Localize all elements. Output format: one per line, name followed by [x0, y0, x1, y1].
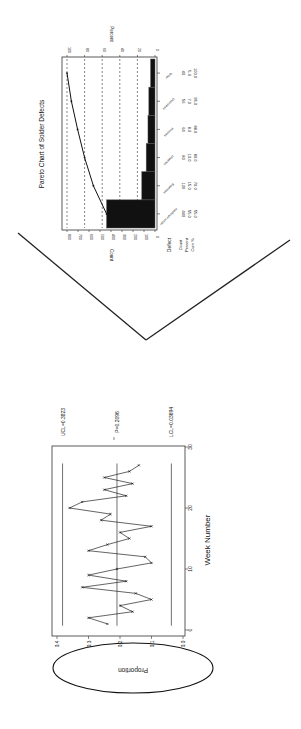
pareto-row-label-defect: Defect	[166, 237, 172, 252]
pareto-row-label-count: Count	[178, 239, 183, 251]
pareto-cum-value: 55.0	[193, 210, 198, 219]
pareto-count-tick-label: 0	[155, 236, 159, 238]
pareto-chart: Insufficient solder44055.055.0Blowholes1…	[38, 26, 198, 262]
pareto-percent-value: 7.0	[187, 98, 192, 104]
pareto-count-value: 440	[181, 211, 186, 218]
pareto-count-value: 120	[181, 182, 186, 189]
pareto-percent-axis-title: Percent	[109, 26, 114, 42]
pareto-bar	[142, 172, 155, 200]
pareto-count-tick-label: 100	[144, 234, 148, 240]
week-tick-label: 20	[187, 505, 193, 511]
pareto-category-label: Unwetted	[163, 154, 175, 166]
pareto-cum-value: 80.0	[193, 154, 198, 163]
pareto-cumulative-point	[93, 185, 95, 187]
pareto-row-label-percent: Percent	[184, 237, 189, 252]
pareto-count-tick-label: 200	[133, 234, 137, 240]
v-connector	[18, 233, 290, 340]
pareto-bar	[146, 144, 155, 172]
pareto-percent-tick-label: 100	[67, 47, 71, 53]
pareto-cumulative-point	[106, 213, 108, 215]
week-tick-label: 30	[187, 444, 193, 450]
pareto-percent-value: 8.0	[187, 127, 192, 133]
pareto-percent-tick-label: 40	[120, 48, 124, 52]
pareto-bar	[151, 59, 155, 87]
p-control-chart: UCL=0.3823P=0.2096LCL=0.036940102030Week…	[52, 407, 213, 693]
ucl-label: UCL=0.3823	[60, 408, 66, 436]
pareto-percent-tick-label: 80	[85, 48, 89, 52]
pareto-category-label: Blowholes	[162, 182, 175, 195]
pareto-bar	[149, 87, 155, 115]
pareto-count-axis-title: Count	[109, 249, 114, 262]
pareto-count-tick-label: 400	[111, 234, 115, 240]
pareto-count-tick-label: 300	[122, 234, 126, 240]
pareto-percent-value: 5.0	[187, 70, 192, 76]
pareto-cum-value: 70.0	[193, 182, 198, 191]
pareto-cumulative-point	[66, 72, 68, 74]
pareto-category-label: Other	[165, 72, 173, 80]
pareto-count-tick-label: 600	[89, 234, 93, 240]
pareto-cumulative-point	[77, 129, 79, 131]
week-tick-label: 10	[187, 566, 193, 572]
pareto-count-value: 80	[181, 155, 186, 160]
pareto-percent-tick-label: 60	[102, 48, 106, 52]
pareto-percent-value: 55.0	[187, 210, 192, 219]
pareto-cum-value: 95.0	[193, 97, 198, 106]
proportion-tick-label: 0.4	[55, 640, 60, 647]
lcl-label: LCL=0.03694	[168, 407, 174, 437]
pareto-cumulative-point	[84, 157, 86, 159]
pareto-count-value: 56	[181, 99, 186, 104]
pareto-bar	[148, 115, 155, 143]
proportion-tick-label: 0.0	[181, 640, 186, 647]
proportion-axis-title: Proportion	[118, 666, 148, 674]
pareto-percent-tick-label: 20	[137, 48, 141, 52]
pareto-percent-value: 10.0	[187, 154, 192, 163]
pareto-count-tick-label: 700	[78, 234, 82, 240]
figure-canvas: Insufficient solder44055.055.0Blowholes1…	[0, 0, 301, 729]
pareto-count-tick-label: 800	[67, 234, 71, 240]
pareto-cumulative-point	[71, 100, 73, 102]
pareto-category-label: Pinholes	[163, 127, 174, 138]
pareto-row-label-cum: Cum %	[190, 238, 195, 252]
pareto-count-value: 64	[181, 127, 186, 132]
pareto-cum-value: 100.0	[193, 68, 198, 79]
pareto-category-label: Unsoldered	[162, 97, 176, 111]
pareto-bar	[107, 200, 155, 228]
control-plot-frame	[52, 446, 185, 636]
pareto-count-tick-label: 500	[100, 234, 104, 240]
pareto-count-value: 40	[181, 71, 186, 76]
week-tick-label: 0	[187, 628, 193, 631]
pareto-category-label: Insufficient solder	[159, 207, 178, 226]
pareto-title: Pareto Chart of Solder Defects	[38, 99, 45, 188]
pareto-percent-tick-label: 0	[155, 49, 159, 51]
pareto-cum-value: 88.0	[193, 126, 198, 135]
week-axis-title: Week Number	[203, 514, 212, 565]
pareto-percent-value: 15.0	[187, 182, 192, 191]
center-line-label: P=0.2096	[114, 411, 120, 433]
